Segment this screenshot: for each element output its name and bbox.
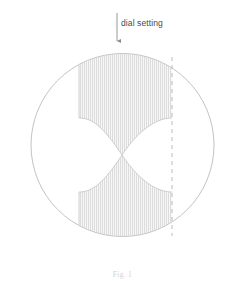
figure-root: dial setting Fig. 1 bbox=[0, 0, 245, 281]
figure-canvas bbox=[0, 0, 245, 281]
dial-setting-label: dial setting bbox=[121, 18, 163, 28]
bowtie-hatched-region bbox=[70, 10, 185, 280]
figure-caption: Fig. 1 bbox=[0, 270, 245, 279]
